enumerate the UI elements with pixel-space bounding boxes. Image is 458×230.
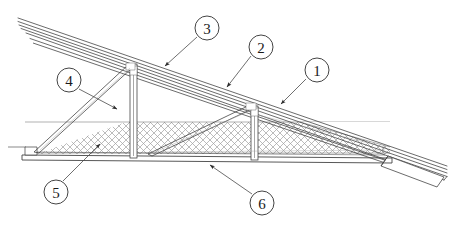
- callout-5-label: 5: [52, 185, 60, 201]
- strut-right-top-connector: [246, 103, 256, 110]
- callout-4-label: 4: [65, 73, 73, 89]
- callout-2-label: 2: [257, 40, 265, 56]
- callout-6-label: 6: [258, 196, 266, 212]
- roof-truss-section-drawing: 123456: [0, 0, 458, 230]
- strut-left-top-connector: [126, 63, 135, 70]
- diagram-canvas: 123456: [0, 0, 458, 230]
- callout-1-label: 1: [313, 63, 321, 79]
- callout-3-label: 3: [203, 21, 211, 37]
